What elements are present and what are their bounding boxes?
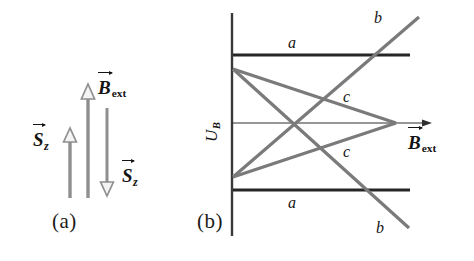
external-field-symbol: B xyxy=(98,77,111,98)
spin-up-subscript: z xyxy=(44,139,49,153)
panel-a-arrows xyxy=(64,84,114,198)
curve-label-a-top: a xyxy=(288,34,296,52)
y-axis-subscript: B xyxy=(210,122,222,130)
spin-up-arrow xyxy=(64,128,77,198)
line-c-from-top xyxy=(233,69,396,123)
external-field-subscript: ext xyxy=(111,87,127,99)
curve-label-c-bottom: c xyxy=(343,143,350,161)
panel-b-caption: (b) xyxy=(197,209,223,234)
spin-down-symbol: S xyxy=(122,165,133,186)
x-axis-arrowhead xyxy=(422,120,432,127)
y-axis-symbol: U xyxy=(202,130,221,142)
external-field-label: Bext xyxy=(98,78,126,100)
spin-up-symbol: S xyxy=(33,129,44,150)
y-axis-label: UB xyxy=(203,122,222,142)
x-axis-label: Bext xyxy=(408,133,436,155)
panel-b-axes xyxy=(232,13,432,236)
panel-a-caption: (a) xyxy=(52,209,77,234)
spin-down-arrow xyxy=(101,108,114,196)
x-axis-subscript: ext xyxy=(421,142,437,154)
curve-label-a-bottom: a xyxy=(288,194,296,212)
spin-up-label: Sz xyxy=(33,130,49,152)
spin-down-subscript: z xyxy=(133,175,138,189)
external-field-arrow xyxy=(81,84,94,198)
curve-label-b-top: b xyxy=(374,9,382,27)
curve-label-b-bottom: b xyxy=(376,219,384,237)
x-axis-symbol: B xyxy=(408,132,421,153)
curve-label-c-top: c xyxy=(343,88,350,106)
spin-down-label: Sz xyxy=(122,166,138,188)
line-c-from-bottom xyxy=(233,123,396,177)
